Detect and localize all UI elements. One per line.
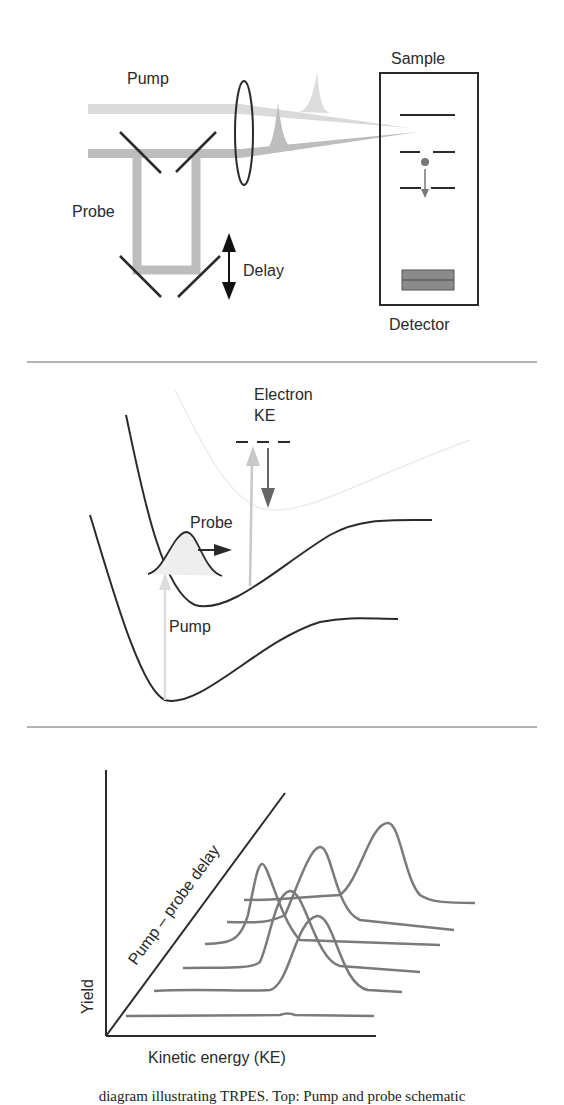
label-pump: Pump xyxy=(169,618,211,635)
label-electron: Electron xyxy=(254,386,313,403)
probe-arrow-icon xyxy=(246,446,260,466)
arrow-right-icon xyxy=(214,544,232,556)
spectrum-trace xyxy=(244,823,475,903)
figure-caption: diagram illustrating TRPES. Top: Pump an… xyxy=(0,1088,564,1105)
ion-potential-curve xyxy=(175,390,470,510)
label-probe: Probe xyxy=(72,203,115,220)
label-pump: Pump xyxy=(127,70,169,87)
arrow-down-icon xyxy=(261,488,275,508)
delay-arrow-icon xyxy=(222,233,236,300)
label-delay-axis: Pump – probe delay xyxy=(125,842,223,968)
potentials-panel: Electron KE Probe Pump xyxy=(90,386,470,701)
wavepacket-icon xyxy=(148,532,222,576)
pump-beam xyxy=(88,104,410,128)
label-ke-axis: Kinetic energy (KE) xyxy=(148,1049,286,1066)
spectra-traces xyxy=(126,823,475,1016)
spectrum-trace xyxy=(154,916,402,992)
spectrum-trace xyxy=(227,847,454,930)
label-detector: Detector xyxy=(389,316,450,333)
setup-panel: Pump Probe Delay Sample Detector xyxy=(72,50,478,333)
spectrum-trace xyxy=(126,1014,374,1017)
spectrum-trace xyxy=(205,864,440,945)
label-delay: Delay xyxy=(243,262,284,279)
pump-pulse-icon xyxy=(297,72,330,113)
label-probe: Probe xyxy=(190,514,233,531)
spectra-panel: Pump – probe delay Yield Kinetic energy … xyxy=(79,770,475,1066)
electron-icon xyxy=(421,158,429,166)
delay-line-path xyxy=(137,153,196,270)
ground-potential-curve xyxy=(90,515,398,701)
label-ke: KE xyxy=(254,407,275,424)
label-yield-axis: Yield xyxy=(79,979,96,1014)
delay-axis xyxy=(106,793,285,1036)
arrow-down-icon xyxy=(421,189,429,198)
label-sample: Sample xyxy=(391,50,445,67)
lens-icon xyxy=(235,81,253,185)
